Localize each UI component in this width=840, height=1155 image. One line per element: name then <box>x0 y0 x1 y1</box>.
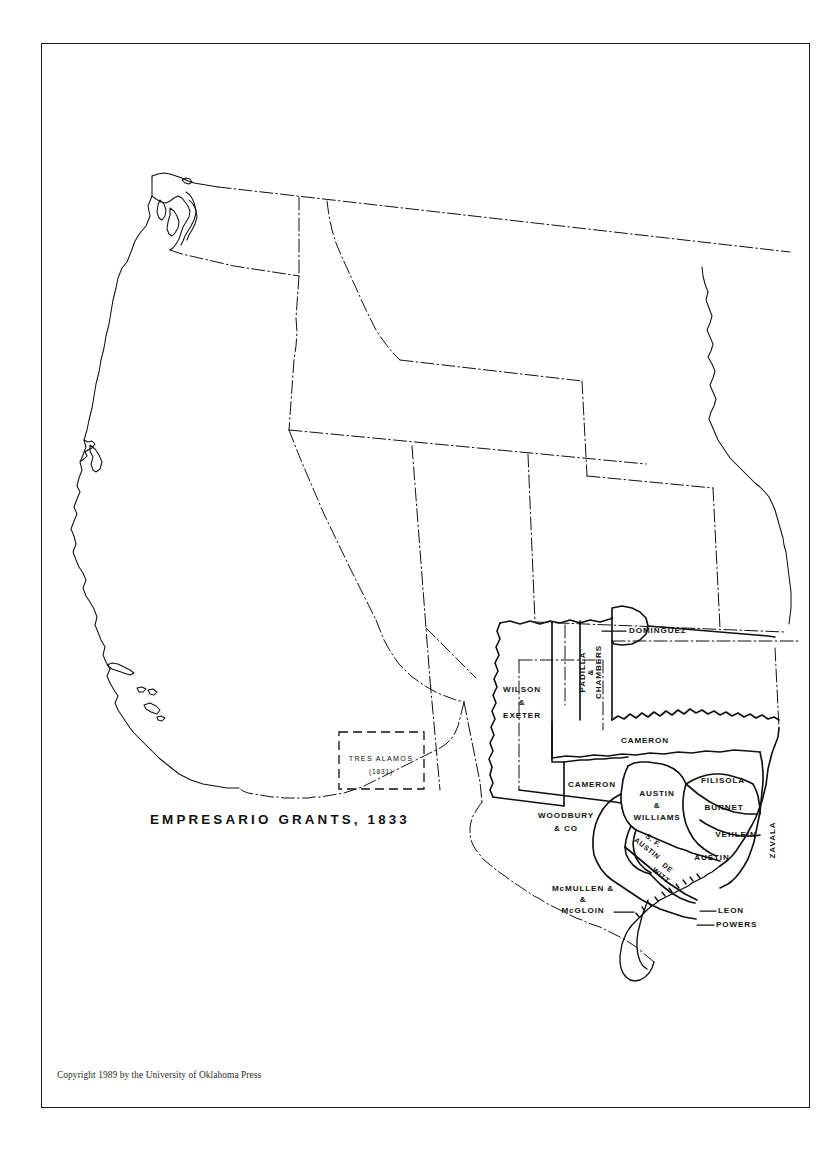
copyright-notice: Copyright 1989 by the University of Okla… <box>57 1070 261 1080</box>
map-plate-page: DOMINGUEZ PADILLA & CHAMBERS WILSON & EX… <box>0 0 840 1155</box>
plate-border <box>41 43 810 1108</box>
map-title: EMPRESARIO GRANTS, 1833 <box>150 812 450 827</box>
